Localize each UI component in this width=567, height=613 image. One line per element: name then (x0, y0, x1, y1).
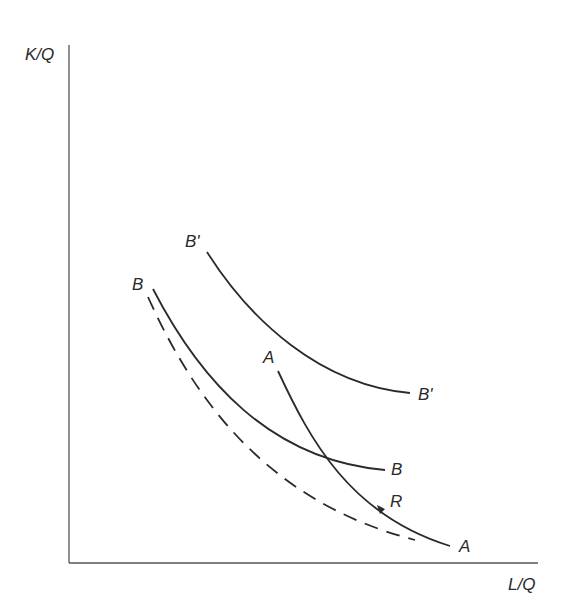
label-b-prime-start: B' (185, 233, 200, 250)
label-r: R (390, 493, 402, 510)
isoquant-diagram: K/Q L/Q B' B' B B A A R (0, 0, 567, 613)
y-axis-label: K/Q (25, 46, 54, 63)
label-b-prime-end: B' (418, 386, 433, 403)
diagram-canvas (0, 0, 567, 613)
curve-b-prime (207, 252, 410, 393)
label-b-end: B (391, 461, 402, 478)
curve-b-dashed (148, 297, 415, 540)
label-b-start: B (132, 276, 143, 293)
label-a-start: A (263, 349, 274, 366)
label-a-end: A (459, 538, 470, 555)
x-axis-label: L/Q (508, 576, 535, 593)
